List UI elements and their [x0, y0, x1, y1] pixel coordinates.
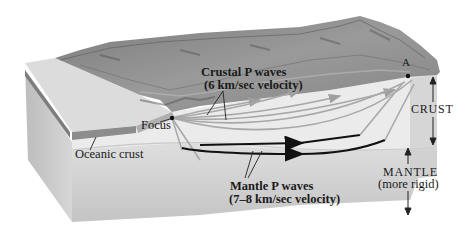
- mantle-rigid-label: (more rigid): [378, 178, 439, 191]
- station-a-point: [406, 74, 410, 78]
- station-a-label: A: [402, 57, 410, 68]
- mantle-p-waves-velocity: (7–8 km/sec velocity): [229, 193, 340, 206]
- crustal-p-waves-label: Crustal P waves: [201, 66, 286, 79]
- crustal-p-waves-velocity: (6 km/sec velocity): [204, 79, 303, 92]
- mantle-p-waves-label: Mantle P waves: [230, 180, 313, 193]
- seismic-block-diagram: Crustal P waves (6 km/sec velocity) Focu…: [0, 0, 476, 242]
- focus-label: Focus: [141, 119, 171, 132]
- oceanic-crust-label: Oceanic crust: [75, 148, 143, 161]
- crust-label: CRUST: [411, 103, 454, 115]
